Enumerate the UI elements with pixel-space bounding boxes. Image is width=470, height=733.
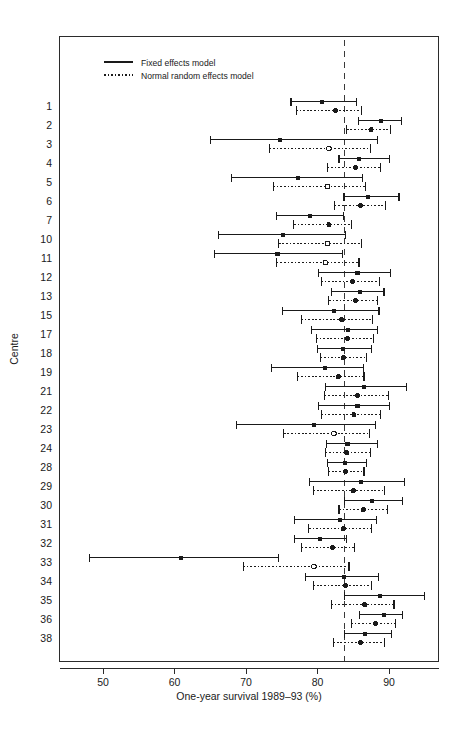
fixed-effects-point-marker: [355, 271, 359, 275]
y-tick-label-centre-3: 3: [46, 138, 52, 150]
fixed-effects-point-marker: [379, 119, 383, 123]
y-tick-label-centre-35: 35: [40, 594, 52, 606]
random-effects-point-marker: [325, 241, 330, 246]
fixed-effects-point-marker: [363, 632, 367, 636]
random-effects-point-marker: [373, 622, 377, 626]
fixed-effects-point-marker: [296, 176, 300, 180]
fixed-effects-point-marker: [382, 613, 386, 617]
random-effects-point-marker: [358, 204, 362, 208]
fixed-effects-point-marker: [338, 518, 342, 522]
y-tick-label-centre-23: 23: [40, 423, 52, 435]
random-effects-point-marker: [343, 584, 347, 588]
random-effects-point-marker: [353, 166, 357, 170]
fixed-effects-point-marker: [278, 138, 282, 142]
random-effects-point-marker: [351, 489, 355, 493]
fixed-effects-point-marker: [357, 157, 361, 161]
fixed-effects-point-marker: [281, 233, 285, 237]
random-effects-point-marker: [343, 470, 347, 474]
random-effects-point-marker: [341, 527, 345, 531]
y-tick-label-centre-4: 4: [46, 157, 52, 169]
y-tick-label-centre-15: 15: [40, 309, 52, 321]
y-tick-label-centre-17: 17: [40, 328, 52, 340]
random-effects-point-marker: [361, 508, 365, 512]
fixed-effects-point-marker: [342, 575, 346, 579]
y-tick-label-centre-10: 10: [40, 233, 52, 245]
fixed-effects-point-marker: [320, 100, 324, 104]
random-effects-point-marker: [327, 223, 331, 227]
random-effects-point-marker: [312, 564, 317, 569]
fixed-effects-point-marker: [370, 499, 374, 503]
y-tick-label-centre-29: 29: [40, 480, 52, 492]
random-effects-point-marker: [341, 356, 345, 360]
forest-plot-svg: Fixed effects model Normal random effect…: [0, 0, 470, 733]
y-tick-label-centre-22: 22: [40, 404, 52, 416]
y-tick-label-centre-28: 28: [40, 461, 52, 473]
y-tick-label-centre-30: 30: [40, 499, 52, 511]
legend-label-random-effects: Normal random effects model: [141, 71, 254, 81]
y-tick-label-centre-7: 7: [46, 214, 52, 226]
fixed-effects-point-marker: [275, 252, 279, 256]
fixed-effects-point-marker: [346, 328, 350, 332]
y-tick-label-centre-21: 21: [40, 385, 52, 397]
random-effects-point-marker: [353, 299, 357, 303]
y-tick-label-centre-32: 32: [40, 537, 52, 549]
y-tick-label-centre-12: 12: [40, 271, 52, 283]
random-effects-point-marker: [340, 318, 344, 322]
fixed-effects-point-marker: [362, 385, 366, 389]
y-tick-label-centre-38: 38: [40, 632, 52, 644]
y-axis-title: Centre: [8, 333, 20, 365]
forest-plot-figure: Fixed effects model Normal random effect…: [0, 0, 470, 733]
fixed-effects-point-marker: [366, 195, 370, 199]
random-effects-point-marker: [325, 184, 330, 189]
fixed-effects-point-marker: [179, 556, 183, 560]
random-effects-point-marker: [327, 146, 332, 151]
fixed-effects-point-marker: [355, 404, 359, 408]
random-effects-point-marker: [356, 394, 360, 398]
fixed-effects-point-marker: [332, 309, 336, 313]
fixed-effects-point-marker: [359, 480, 363, 484]
fixed-effects-point-marker: [378, 594, 382, 598]
y-tick-label-centre-33: 33: [40, 556, 52, 568]
y-tick-label-centre-1: 1: [46, 100, 52, 112]
y-tick-label-centre-19: 19: [40, 366, 52, 378]
fixed-effects-point-marker: [308, 214, 312, 218]
fixed-effects-point-marker: [318, 537, 322, 541]
y-tick-label-centre-6: 6: [46, 195, 52, 207]
random-effects-point-marker: [358, 641, 362, 645]
y-tick-label-centre-18: 18: [40, 347, 52, 359]
random-effects-point-marker: [333, 109, 337, 113]
y-tick-label-centre-31: 31: [40, 518, 52, 530]
random-effects-point-marker: [331, 546, 335, 550]
x-axis-title: One-year survival 1989–93 (%): [176, 690, 321, 702]
fixed-effects-point-marker: [343, 461, 347, 465]
random-effects-point-marker: [346, 337, 350, 341]
y-tick-label-centre-24: 24: [40, 442, 52, 454]
legend-label-fixed-effects: Fixed effects model: [141, 58, 215, 68]
y-tick-label-centre-13: 13: [40, 290, 52, 302]
y-tick-label-centre-2: 2: [46, 119, 52, 131]
y-tick-label-centre-11: 11: [41, 252, 52, 264]
fixed-effects-point-marker: [345, 442, 349, 446]
fixed-effects-point-marker: [323, 366, 327, 370]
y-tick-label-centre-36: 36: [40, 613, 52, 625]
random-effects-point-marker: [352, 413, 356, 417]
y-tick-label-centre-5: 5: [46, 176, 52, 188]
random-effects-point-marker: [336, 375, 340, 379]
random-effects-point-marker: [345, 451, 349, 455]
fixed-effects-point-marker: [341, 347, 345, 351]
random-effects-point-marker: [323, 260, 328, 265]
random-effects-point-marker: [369, 128, 373, 132]
random-effects-point-marker: [351, 280, 355, 284]
x-tick-label-60: 60: [169, 676, 181, 688]
fixed-effects-point-marker: [358, 290, 362, 294]
fixed-effects-point-marker: [312, 423, 316, 427]
random-effects-point-marker: [332, 431, 337, 436]
figure-background: [0, 0, 470, 733]
x-tick-label-50: 50: [97, 676, 109, 688]
x-tick-label-70: 70: [240, 676, 252, 688]
random-effects-point-marker: [363, 603, 367, 607]
x-tick-label-90: 90: [383, 676, 395, 688]
x-tick-label-80: 80: [312, 676, 324, 688]
y-tick-label-centre-34: 34: [40, 575, 52, 587]
